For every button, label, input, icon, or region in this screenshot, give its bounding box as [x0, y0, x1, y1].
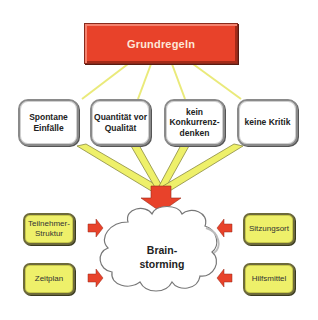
factor-box-teilnehmer-struktur: Teilnehmer- Struktur	[23, 213, 75, 245]
center-label-brainstorming: Brain- storming	[134, 244, 190, 271]
factor-label: Zeitplan	[35, 274, 63, 284]
rule-label: keine Kritik	[245, 117, 291, 128]
rule-box-kein-konkurrenzdenken: kein Konkurrenz- denken	[164, 99, 225, 146]
factor-label: Sitzungsort	[249, 224, 289, 234]
title-connectors	[82, 64, 241, 99]
factor-box-sitzungsort: Sitzungsort	[243, 213, 295, 245]
factor-label: Teilnehmer- Struktur	[28, 219, 70, 239]
arrow-right-icon	[88, 219, 103, 237]
title-label: Grundregeln	[127, 38, 195, 50]
rule-arrows	[77, 144, 243, 192]
rule-box-quantitaet: Quantität vor Qualität	[90, 99, 151, 146]
arrow-left-icon	[217, 219, 232, 237]
rule-label: Spontane Einfälle	[29, 112, 68, 133]
arrow-right-icon	[88, 269, 103, 287]
factor-label: Hilfsmittel	[252, 274, 287, 284]
rule-box-spontane-einfaelle: Spontane Einfälle	[18, 99, 79, 146]
rule-box-keine-kritik: keine Kritik	[237, 99, 298, 146]
factor-box-hilfsmittel: Hilfsmittel	[243, 263, 295, 295]
arrow-left-icon	[217, 269, 232, 287]
factor-box-zeitplan: Zeitplan	[23, 263, 75, 295]
rule-label: Quantität vor Qualität	[94, 112, 147, 133]
title-box-grundregeln: Grundregeln	[84, 23, 238, 64]
rule-label: kein Konkurrenz- denken	[169, 107, 219, 139]
